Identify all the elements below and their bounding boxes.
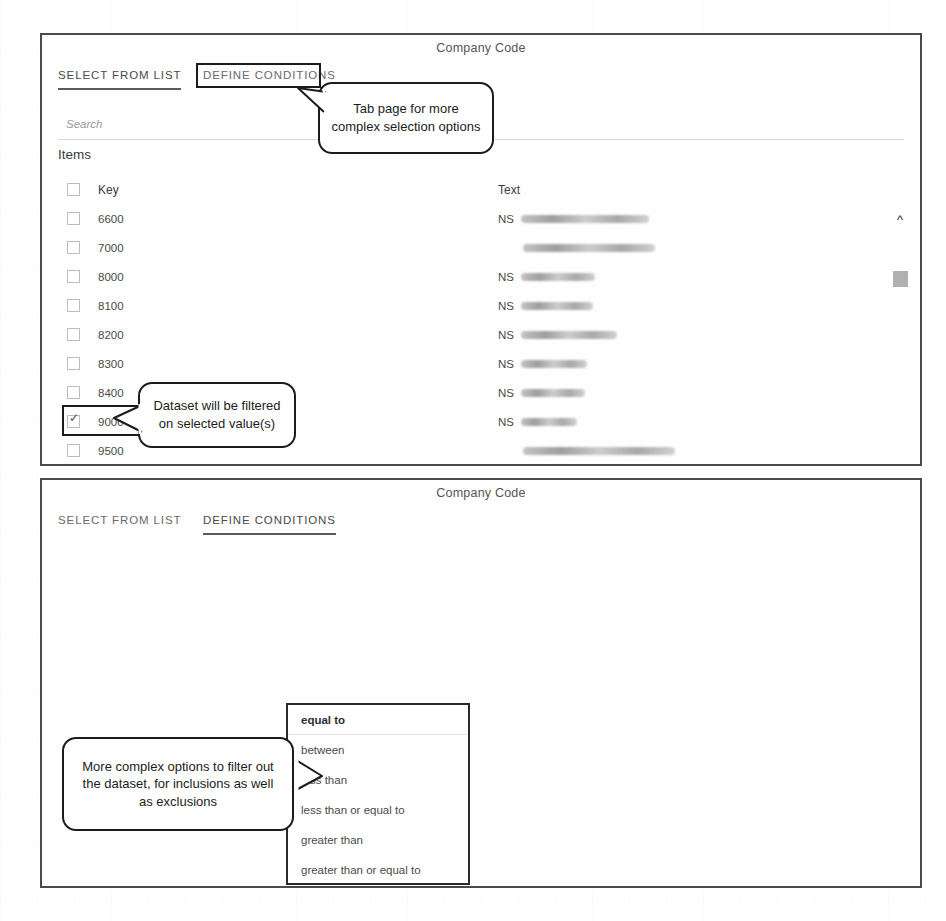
- chevron-up-icon[interactable]: ^: [892, 213, 908, 227]
- dropdown-option[interactable]: equal to: [288, 705, 468, 735]
- column-header-key: Key: [98, 183, 498, 197]
- row-text: [498, 447, 675, 455]
- row-text: NS: [498, 358, 587, 370]
- redacted-text: [521, 215, 649, 223]
- redacted-text: [521, 302, 593, 310]
- row-key: 8000: [98, 271, 498, 283]
- row-key: 8100: [98, 300, 498, 312]
- row-text: [498, 244, 655, 252]
- callout-complex-options: More complex options to filter out the d…: [62, 737, 294, 831]
- redacted-text: [523, 447, 675, 455]
- row-text: NS: [498, 271, 595, 283]
- row-text: NS: [498, 416, 577, 428]
- row-checkbox[interactable]: [67, 270, 80, 283]
- row-checkbox[interactable]: [67, 444, 80, 457]
- row-text-prefix: NS: [498, 300, 514, 312]
- callout-selected-values: Dataset will be filtered on selected val…: [138, 382, 296, 448]
- row-text-prefix: NS: [498, 387, 514, 399]
- redacted-text: [521, 389, 585, 397]
- list-scrollbar[interactable]: ^ ⌄: [890, 213, 910, 497]
- callout-options-text: More complex options to filter out the d…: [74, 758, 282, 811]
- row-key: 7000: [98, 242, 498, 254]
- table-row[interactable]: 7000: [58, 233, 888, 262]
- callout-tail-options: [288, 756, 330, 804]
- callout-tab-text: Tab page for more complex selection opti…: [330, 100, 482, 135]
- callout-tail-selected: [112, 400, 158, 444]
- row-text-prefix: NS: [498, 213, 514, 225]
- tab-select-from-list-2[interactable]: SELECT FROM LIST: [58, 514, 181, 535]
- dropdown-option[interactable]: greater than or equal to: [288, 855, 468, 885]
- panel-title-define: Company Code: [42, 486, 920, 500]
- table-row[interactable]: 8200NS: [58, 320, 888, 349]
- redacted-text: [521, 360, 587, 368]
- screenshot-root: Company Code SELECT FROM LIST DEFINE CON…: [0, 0, 946, 921]
- row-checkbox[interactable]: [67, 357, 80, 370]
- tabbar-define: SELECT FROM LIST DEFINE CONDITIONS: [58, 514, 904, 548]
- table-row[interactable]: 8300NS: [58, 349, 888, 378]
- dropdown-option[interactable]: greater than: [288, 825, 468, 855]
- annotation-box-define-conditions-tab: [196, 63, 321, 88]
- callout-selected-text: Dataset will be filtered on selected val…: [150, 397, 284, 432]
- redacted-text: [521, 273, 595, 281]
- callout-tab-page: Tab page for more complex selection opti…: [318, 82, 494, 154]
- row-checkbox[interactable]: [67, 212, 80, 225]
- row-key: 8300: [98, 358, 498, 370]
- row-text: NS: [498, 329, 617, 341]
- row-checkbox[interactable]: [67, 299, 80, 312]
- redacted-text: [521, 331, 617, 339]
- row-checkbox[interactable]: [67, 386, 80, 399]
- table-row[interactable]: 6600NS: [58, 204, 888, 233]
- panel-title-select: Company Code: [42, 41, 920, 55]
- row-text-prefix: NS: [498, 329, 514, 341]
- row-text: NS: [498, 300, 593, 312]
- select-all-checkbox[interactable]: [67, 183, 80, 196]
- tab-select-from-list[interactable]: SELECT FROM LIST: [58, 69, 181, 90]
- row-text: NS: [498, 387, 585, 399]
- table-row[interactable]: 8000NS: [58, 262, 888, 291]
- row-text: NS: [498, 213, 649, 225]
- redacted-text: [523, 244, 655, 252]
- scrollbar-thumb[interactable]: [893, 271, 908, 287]
- row-key: 8200: [98, 329, 498, 341]
- list-header-row: Key Text: [58, 175, 888, 204]
- column-header-text: Text: [498, 183, 520, 197]
- callout-tail-tab: [294, 88, 334, 124]
- row-text-prefix: NS: [498, 358, 514, 370]
- redacted-text: [521, 418, 577, 426]
- row-text-prefix: NS: [498, 271, 514, 283]
- search-placeholder: Search: [66, 118, 102, 130]
- row-key: 6600: [98, 213, 498, 225]
- row-checkbox[interactable]: [67, 328, 80, 341]
- items-label: Items: [58, 147, 91, 162]
- row-text-prefix: NS: [498, 416, 514, 428]
- row-checkbox[interactable]: [67, 241, 80, 254]
- tab-define-conditions-2[interactable]: DEFINE CONDITIONS: [203, 514, 336, 535]
- table-row[interactable]: 8100NS: [58, 291, 888, 320]
